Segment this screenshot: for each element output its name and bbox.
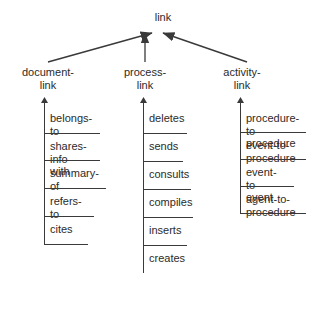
node-link-root: link (123, 11, 203, 24)
instance-tick (143, 161, 183, 162)
instance-tick (143, 189, 191, 190)
instance-item: deletes (143, 112, 184, 125)
taxonomy-diagram: link document- link process- link activi… (0, 0, 333, 309)
instance-label: consults (149, 168, 189, 180)
instance-tick (143, 245, 187, 246)
node-document-link: document- link (0, 66, 96, 92)
instance-item: sends (143, 140, 178, 153)
instance-tick (44, 188, 106, 189)
instance-tick (44, 133, 100, 134)
instance-tick (44, 244, 88, 245)
spine-arrowhead-icon (40, 97, 49, 107)
edge-document-link-to-link (48, 33, 152, 62)
instance-item: event-to- procedure (240, 139, 296, 164)
instance-label: creates (149, 252, 185, 264)
instance-item: agent-to- procedure (240, 193, 296, 218)
node-process-link: process- link (97, 66, 193, 92)
node-activity-link: activity- link (194, 66, 290, 92)
instance-tick (240, 159, 306, 160)
instance-label: inserts (149, 224, 181, 236)
instance-tick (143, 217, 193, 218)
instance-tick (44, 216, 94, 217)
instance-label: deletes (149, 112, 184, 124)
instance-tick (240, 213, 306, 214)
instance-tick (240, 132, 306, 133)
spine-arrowhead-icon (139, 97, 148, 107)
instance-tick (240, 186, 294, 187)
instance-item: compiles (143, 196, 192, 209)
instance-item: cites (44, 223, 73, 236)
instance-label: cites (50, 223, 73, 235)
spine-arrowhead-icon (236, 97, 245, 107)
spine-process-link (143, 103, 144, 273)
instance-item: creates (143, 252, 185, 265)
instance-item: consults (143, 168, 189, 181)
instance-label: sends (149, 140, 178, 152)
instance-label: compiles (149, 196, 192, 208)
instance-item: inserts (143, 224, 181, 237)
edge-activity-link-to-link (163, 33, 247, 62)
instance-tick (44, 160, 100, 161)
instance-tick (143, 133, 187, 134)
